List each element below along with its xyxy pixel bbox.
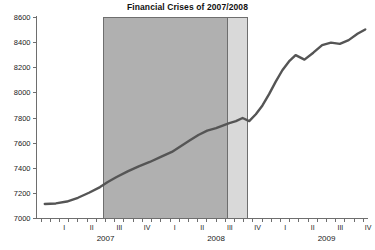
y-tick-label: 7200 [14,189,31,198]
y-tick-label: 7800 [14,114,31,123]
x-tick-label-quarter: III [227,224,233,231]
y-tick-layer: 700072007400760078008000820084008600 [14,13,37,223]
y-tick-label: 8400 [14,38,31,47]
recession-band-dark [103,18,227,219]
x-axis-labels-layer: IIIIIIIVIIIIIIIVIIIIIIIV200720082009 [63,224,371,243]
x-axis-year-label: 2009 [318,234,336,243]
y-tick-label: 8000 [14,88,31,97]
x-tick-label-quarter: II [311,224,315,231]
x-axis-year-label: 2008 [207,234,225,243]
x-tick-label-quarter: III [337,224,343,231]
y-tick-label: 8600 [14,13,31,22]
x-tick-label-quarter: III [116,224,122,231]
y-tick-label: 7400 [14,164,31,173]
x-tick-label-quarter: I [284,224,286,231]
y-tick-label: 8200 [14,63,31,72]
x-tick-label-quarter: I [174,224,176,231]
x-axis-year-label: 2007 [97,234,115,243]
x-tick-label-quarter: IV [254,224,261,231]
x-tick-label-quarter: II [90,224,94,231]
x-tick-label-quarter: I [63,224,65,231]
chart-root: Financial Crises of 2007/2008 7000720074… [0,0,375,250]
y-tick-label: 7000 [14,214,31,223]
y-tick-label: 7600 [14,139,31,148]
x-tick-label-quarter: II [200,224,204,231]
shaded-regions-layer [103,18,247,219]
x-tick-label-quarter: IV [365,224,372,231]
line-chart-plot: 700072007400760078008000820084008600 III… [0,0,375,250]
x-tick-label-quarter: IV [144,224,151,231]
